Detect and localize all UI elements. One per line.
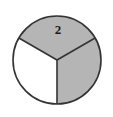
pie-chart-svg: 2 — [0, 0, 113, 117]
pie-figure-container: 2 — [0, 0, 113, 117]
slice-label-2: 2 — [55, 22, 62, 37]
